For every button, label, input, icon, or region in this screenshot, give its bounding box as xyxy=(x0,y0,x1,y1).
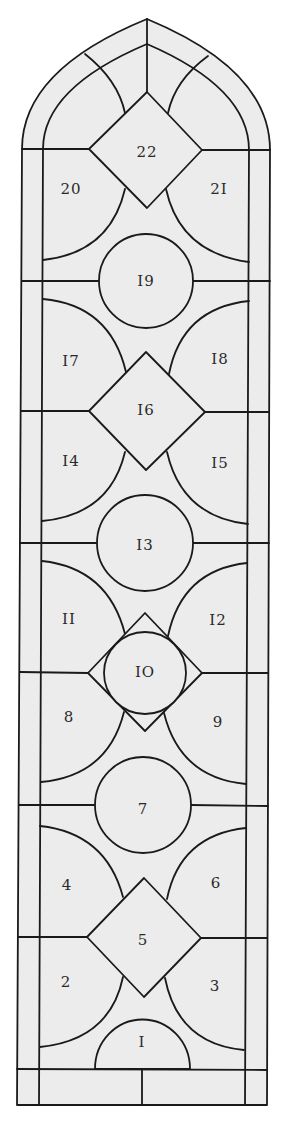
panel-label-16: I6 xyxy=(137,401,154,419)
panel-label-21: 2I xyxy=(210,180,227,198)
panel-label-20: 20 xyxy=(60,180,81,198)
panel-label-6: 6 xyxy=(211,874,222,892)
panel-label-2: 2 xyxy=(61,973,72,991)
panel-label-13: I3 xyxy=(136,536,153,554)
transom-7-r xyxy=(191,805,268,806)
panel-label-12: I2 xyxy=(209,611,226,629)
panel-label-22: 22 xyxy=(136,143,157,161)
transom-10-l xyxy=(20,672,88,673)
panel-label-5: 5 xyxy=(138,931,149,949)
panel-label-11: II xyxy=(62,610,76,628)
panel-label-18: I8 xyxy=(211,350,228,368)
panel-label-8: 8 xyxy=(64,708,75,726)
panel-label-3: 3 xyxy=(210,977,221,995)
panel-label-14: I4 xyxy=(62,452,79,470)
stained-glass-window-diagram: I 2 3 4 5 6 7 8 9 IO II I2 I3 I4 I5 I6 I… xyxy=(0,0,284,1123)
panel-label-15: I5 xyxy=(211,454,228,472)
panel-label-4: 4 xyxy=(62,876,73,894)
panel-label-7: 7 xyxy=(138,800,149,818)
panel-label-9: 9 xyxy=(213,713,224,731)
panel-label-17: I7 xyxy=(62,352,79,370)
panel-label-19: I9 xyxy=(137,272,154,290)
panel-label-1: I xyxy=(139,1033,146,1051)
panel-label-10: IO xyxy=(135,663,155,681)
